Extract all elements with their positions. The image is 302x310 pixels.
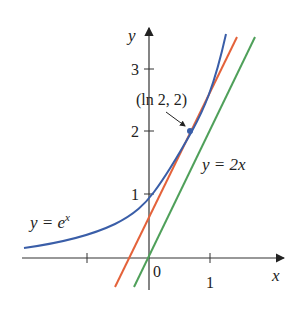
curve-label-exponent: x: [64, 211, 70, 223]
x-axis-label: x: [271, 266, 280, 285]
curve-label: y = ex: [28, 211, 70, 232]
line-label: y = 2x: [200, 155, 246, 174]
x-tick-label-1: 1: [206, 274, 214, 291]
y-tick-label-3: 3: [131, 61, 139, 78]
tangent-point: [187, 128, 193, 134]
chart-canvas: y x 0 1 1 2 3 (ln 2, 2) y = 2x y = ex: [0, 0, 302, 310]
y-tick-label-2: 2: [131, 123, 139, 140]
point-label: (ln 2, 2): [136, 91, 187, 109]
y-tick-label-1: 1: [131, 186, 139, 203]
origin-label: 0: [153, 263, 161, 280]
y-axis-label: y: [126, 26, 136, 45]
point-arrow: [166, 112, 185, 126]
